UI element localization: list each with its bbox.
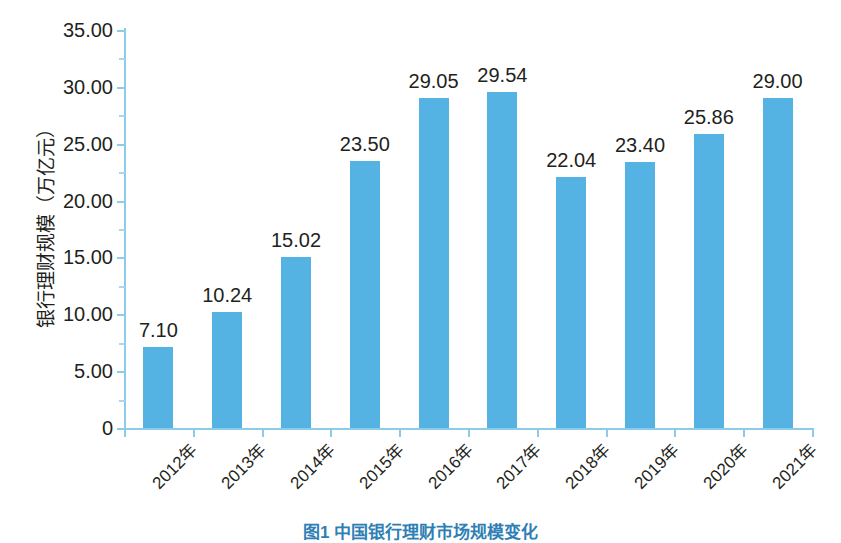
x-axis-tick	[812, 428, 814, 437]
y-axis-tick-label: 0	[102, 417, 113, 440]
x-axis-tick	[537, 428, 539, 437]
bar: 10.24	[212, 312, 242, 428]
bar-value-label: 23.50	[340, 133, 390, 156]
y-axis-tick	[117, 144, 125, 146]
y-axis-minor-tick	[119, 400, 125, 402]
bar: 23.40	[625, 162, 655, 428]
bar-value-label: 29.54	[477, 64, 527, 87]
y-axis-tick	[117, 371, 125, 373]
y-axis-minor-tick	[119, 115, 125, 117]
bar-value-label: 7.10	[139, 319, 178, 342]
y-axis-tick	[117, 30, 125, 32]
y-axis-tick-label: 10.00	[63, 303, 113, 326]
y-axis-tick	[117, 257, 125, 259]
bar-value-label: 23.40	[615, 134, 665, 157]
x-axis-tick	[193, 428, 195, 437]
y-axis-tick-label: 30.00	[63, 75, 113, 98]
x-axis-tick	[606, 428, 608, 437]
y-axis-minor-tick	[119, 172, 125, 174]
x-axis-tick	[468, 428, 470, 437]
bar: 15.02	[281, 257, 311, 428]
y-axis-tick-label: 25.00	[63, 132, 113, 155]
bar: 7.10	[143, 347, 173, 428]
x-axis-tick	[674, 428, 676, 437]
bar: 22.04	[556, 177, 586, 428]
bar-value-label: 29.05	[409, 70, 459, 93]
y-axis-minor-tick	[119, 58, 125, 60]
plot-area: 05.0010.0015.0020.0025.0030.0035.00 7.10…	[124, 30, 812, 428]
bar: 23.50	[350, 161, 380, 428]
bar-value-label: 25.86	[684, 106, 734, 129]
y-axis-tick-label: 15.00	[63, 246, 113, 269]
bar: 25.86	[694, 134, 724, 428]
y-axis-tick-label: 5.00	[74, 360, 113, 383]
y-axis-tick	[117, 314, 125, 316]
x-axis-tick	[124, 428, 126, 437]
x-axis-tick	[743, 428, 745, 437]
x-axis-tick	[330, 428, 332, 437]
y-axis-minor-tick	[119, 343, 125, 345]
x-axis-label: 2019年	[598, 437, 684, 523]
bar-value-label: 15.02	[271, 229, 321, 252]
x-axis-tick	[262, 428, 264, 437]
y-axis-minor-tick	[119, 229, 125, 231]
bar: 29.54	[487, 92, 517, 428]
y-axis-tick	[117, 87, 125, 89]
x-axis-label: 2014年	[254, 437, 340, 523]
bar: 29.00	[763, 98, 793, 428]
bar-value-label: 10.24	[202, 284, 252, 307]
figure-caption: 图1 中国银行理财市场规模变化	[0, 518, 841, 543]
y-axis-tick-label: 35.00	[63, 19, 113, 42]
y-axis-tick-label: 20.00	[63, 189, 113, 212]
bar-value-label: 22.04	[546, 149, 596, 172]
y-axis-tick	[117, 201, 125, 203]
x-axis-tick	[399, 428, 401, 437]
y-axis-minor-tick	[119, 286, 125, 288]
y-axis-title: 银行理财规模（万亿元）	[31, 24, 58, 424]
bar: 29.05	[419, 98, 449, 428]
bar-value-label: 29.00	[753, 70, 803, 93]
